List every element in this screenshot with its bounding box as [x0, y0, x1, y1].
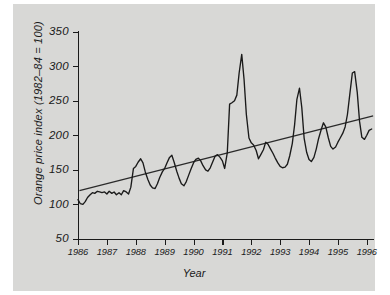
trend-line-path: [79, 116, 373, 191]
chart-figure: 350 300 250 200 150 100 50 1986 1987 198…: [13, 4, 375, 291]
x-axis-label: Year: [13, 267, 375, 279]
chart-plot-svg: [13, 4, 375, 291]
y-axis-label-wrapper: Orange price index (1982–84 = 100): [28, 0, 46, 233]
price-index-line-path: [78, 54, 372, 204]
plot-panel: 350 300 250 200 150 100 50 1986 1987 198…: [13, 4, 375, 291]
y-axis-label: Orange price index (1982–84 = 100): [32, 21, 44, 205]
